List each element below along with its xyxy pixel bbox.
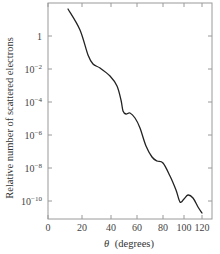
y-tick-label: 10−6 — [25, 129, 43, 141]
chart-figure: 020406080100120 110−210−410−610−810−10 θ… — [0, 0, 220, 254]
x-tick-label: 100 — [177, 222, 192, 233]
x-axis-tick-labels: 020406080100120 — [46, 222, 210, 233]
y-axis-ticks — [48, 36, 212, 201]
x-tick-label: 80 — [158, 222, 168, 233]
x-tick-label: 0 — [46, 222, 51, 233]
x-tick-label: 120 — [195, 222, 210, 233]
x-axis-title: θ (degrees) — [104, 238, 154, 250]
y-axis-title: Relative number of scattered electrons — [4, 37, 15, 199]
y-tick-label: 1 — [37, 31, 42, 42]
x-axis-ticks — [48, 3, 202, 219]
x-axis-symbol: θ — [104, 238, 109, 249]
data-curve — [68, 9, 202, 213]
y-axis-tick-labels: 110−210−410−610−810−10 — [21, 31, 42, 207]
plot-frame — [48, 3, 212, 219]
y-tick-label: 10−10 — [21, 195, 42, 207]
y-tick-label: 10−4 — [25, 96, 43, 108]
x-tick-label: 60 — [132, 222, 142, 233]
y-tick-label: 10−8 — [25, 162, 43, 174]
y-tick-label: 10−2 — [25, 63, 43, 75]
x-tick-label: 40 — [106, 222, 116, 233]
x-axis-unit: (degrees) — [115, 238, 155, 250]
x-tick-label: 20 — [77, 222, 87, 233]
